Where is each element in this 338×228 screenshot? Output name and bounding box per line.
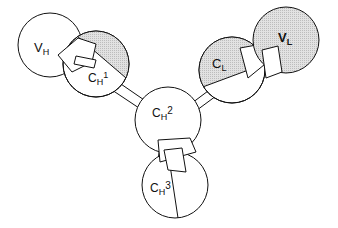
antibody-diagram: VH CH1 CH2 CH3 CL VL [0, 0, 338, 228]
domain-ch3: CH3 [142, 138, 208, 218]
